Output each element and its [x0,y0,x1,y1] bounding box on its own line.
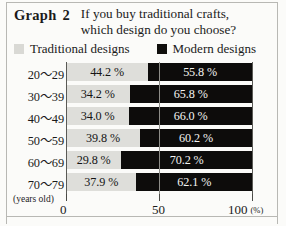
row-category-label: 20～29 [14,65,64,83]
chart-row: 30～3934.2 %65.8 % [0,84,286,104]
axis-line-right [252,62,253,194]
figure-border-top [6,2,278,3]
axis-line-left [66,62,67,194]
axis-tick-label-50: 50 [152,202,165,218]
bar-segment-modern: 60.2 % [140,129,252,147]
row-category-label: 70～79 [14,175,64,193]
row-category-label: 40～49 [14,109,64,127]
chart-row: 20～2944.2 %55.8 % [0,62,286,82]
axis-tick-100 [252,194,253,201]
legend-swatch-light-icon [14,44,24,54]
bar-segment-traditional: 29.8 % [66,151,121,169]
bar-segment-modern: 70.2 % [121,151,252,169]
question-line-2: which design do you choose? [81,22,236,38]
bar-segment-traditional: 44.2 % [66,63,148,81]
chart-row: 50～5939.8 %60.2 % [0,128,286,148]
row-category-label: 50～59 [14,131,64,149]
legend-swatch-dark-icon [157,44,167,54]
bar-segment-traditional: 37.9 % [66,173,136,191]
legend-label-traditional: Traditional designs [30,42,130,55]
chart-row: 60～6929.8 %70.2 % [0,150,286,170]
legend-item-modern: Modern designs [157,42,256,55]
chart-row: 70～7937.9 %62.1 % [0,172,286,192]
question-text: If you buy traditional crafts, which des… [81,6,236,37]
gridline-50 [159,62,160,194]
graph-number: 2 [63,6,70,24]
bar-segment-modern: 66.0 % [129,107,252,125]
axis-unit-years: (years old) [13,194,54,204]
axis-tick-100-value: 100 [228,202,248,217]
bar-segment-traditional: 39.8 % [66,129,140,147]
axis-tick-label-0: 0 [60,202,67,218]
bar-segment-modern: 62.1 % [136,173,252,191]
graph-figure: Graph 2 If you buy traditional crafts, w… [0,0,286,226]
row-category-label: 60～69 [14,153,64,171]
bar-segment-modern: 65.8 % [130,85,252,103]
legend-label-modern: Modern designs [173,42,256,55]
chart-legend: Traditional designs Modern designs [14,42,272,55]
axis-tick-50 [159,194,160,201]
question-line-1: If you buy traditional crafts, [81,6,236,22]
figure-title: Graph 2 If you buy traditional crafts, w… [14,6,272,37]
legend-item-traditional: Traditional designs [14,42,130,55]
chart-plot-area: 20～2944.2 %55.8 %30～3934.2 %65.8 %40～493… [0,62,286,194]
chart-row: 40～4934.0 %66.0 % [0,106,286,126]
bar-segment-traditional: 34.0 % [66,107,129,125]
axis-unit-percent: (%) [251,205,264,215]
graph-label: Graph [14,6,57,24]
bar-segment-traditional: 34.2 % [66,85,130,103]
bar-segment-modern: 55.8 % [148,63,252,81]
axis-tick-label-100: 100(%) [228,202,263,218]
axis-tick-0 [66,194,67,201]
row-category-label: 30～39 [14,87,64,105]
